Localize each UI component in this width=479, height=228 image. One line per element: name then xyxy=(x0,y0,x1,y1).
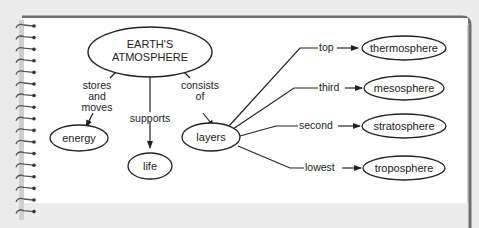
svg-text:ATMOSPHERE: ATMOSPHERE xyxy=(112,51,188,63)
svg-text:life: life xyxy=(143,160,157,172)
svg-text:of: of xyxy=(196,90,205,102)
link-label-third: third xyxy=(319,81,340,93)
svg-text:supports: supports xyxy=(130,112,170,124)
node-stratosphere: stratosphere xyxy=(362,114,446,138)
link-label-top: top xyxy=(319,41,334,53)
svg-text:stratosphere: stratosphere xyxy=(373,120,434,132)
node-layers: layers xyxy=(182,123,240,151)
notebook-page: EARTH'S ATMOSPHERE energy life layers th… xyxy=(0,0,479,228)
svg-text:layers: layers xyxy=(196,131,226,143)
svg-text:mesosphere: mesosphere xyxy=(374,82,435,94)
node-energy: energy xyxy=(50,125,108,151)
svg-text:energy: energy xyxy=(62,132,96,144)
node-life: life xyxy=(128,153,172,179)
link-label-supports: supports xyxy=(130,112,170,124)
link-label-second: second xyxy=(299,119,333,131)
svg-text:thermosphere: thermosphere xyxy=(370,42,438,54)
link-label-lowest: lowest xyxy=(305,161,335,173)
node-thermosphere: thermosphere xyxy=(362,36,446,60)
svg-text:moves: moves xyxy=(82,101,113,113)
svg-text:troposphere: troposphere xyxy=(375,162,434,174)
node-earths-atmosphere: EARTH'S ATMOSPHERE xyxy=(88,27,212,77)
node-mesosphere: mesosphere xyxy=(364,76,444,100)
node-troposphere: troposphere xyxy=(363,156,445,180)
svg-text:EARTH'S: EARTH'S xyxy=(127,38,174,50)
